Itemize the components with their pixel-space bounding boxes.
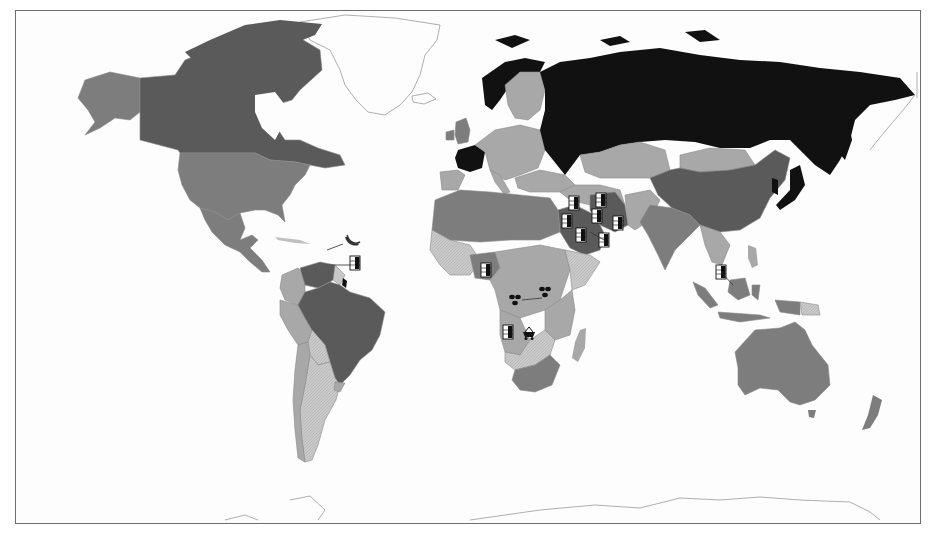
region-indonesia [693, 278, 800, 322]
region-uk [455, 118, 470, 144]
region-uruguay [334, 382, 345, 392]
region-canada [140, 38, 345, 168]
region-new-zealand [862, 395, 882, 430]
oil-barrel-icon [562, 214, 572, 228]
region-iceland [412, 93, 436, 104]
region-korea [772, 178, 778, 195]
region-philippines [748, 245, 758, 268]
region-australia [735, 322, 830, 405]
oil-barrel-icon [350, 256, 360, 270]
oil-barrel-icon [592, 209, 602, 223]
region-ireland [446, 130, 454, 140]
oil-barrel-icon [569, 196, 579, 210]
region-tasmania [808, 410, 816, 418]
oil-barrel-icon [481, 263, 491, 277]
region-cuba [275, 237, 310, 244]
region-horn-of-africa [565, 250, 600, 290]
region-png [800, 302, 820, 315]
region-mexico [200, 208, 270, 272]
oil-barrel-icon [576, 228, 586, 242]
oil-barrel-icon [596, 193, 606, 207]
region-north-africa [432, 190, 560, 242]
region-russia-islands [495, 30, 720, 48]
oil-barrel-icon [503, 325, 513, 339]
world-map [0, 0, 935, 536]
region-madagascar [572, 328, 586, 362]
banana-icon [345, 235, 360, 246]
region-alaska [78, 72, 140, 135]
region-united-states [178, 153, 310, 222]
region-antarctica [225, 496, 880, 520]
region-iberia [440, 170, 465, 190]
oil-barrel-icon [613, 216, 623, 230]
